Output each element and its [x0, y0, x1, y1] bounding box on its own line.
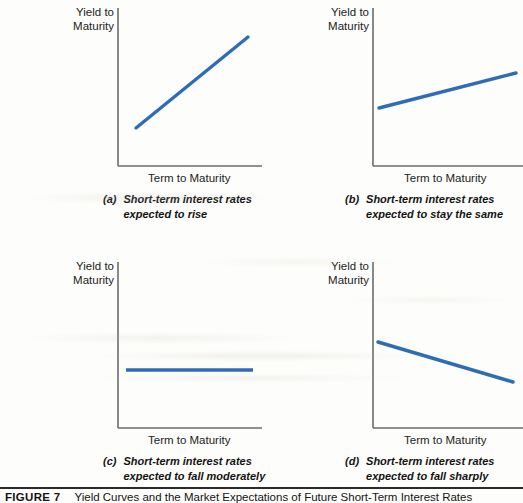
panel-b-caption: (b) Short-term interest rates expected t…	[345, 192, 520, 221]
panel-a-caption-letter: (a)	[103, 192, 116, 221]
panel-d-caption: (d) Short-term interest rates expected t…	[345, 454, 517, 483]
panel-c-x-axis-label: Term to Maturity	[148, 434, 230, 448]
panel-a-y-axis-label: Yield to Maturity	[28, 6, 114, 33]
panel-b-y-axis-label: Yield to Maturity	[283, 6, 369, 33]
panel-a-x-axis-label: Term to Maturity	[148, 172, 230, 186]
panel-c-caption-letter: (c)	[103, 454, 116, 483]
figure-number: FIGURE 7	[5, 491, 60, 503]
panel-c-caption-text: Short-term interest rates expected to fa…	[123, 454, 271, 483]
yield-curve-line	[378, 342, 513, 382]
figure-container: Yield to Maturity Term to Maturity (a) S…	[0, 0, 523, 503]
yield-curve-line	[379, 73, 516, 108]
panel-d-x-axis-label: Term to Maturity	[404, 434, 486, 448]
panel-b: Yield to Maturity Term to Maturity (b) S…	[261, 0, 523, 230]
figure-footer: FIGURE 7Yield Curves and the Market Expe…	[0, 484, 523, 503]
panel-d: Yield to Maturity Term to Maturity (d) S…	[261, 252, 523, 487]
panel-b-caption-letter: (b)	[345, 192, 359, 221]
panel-c: Yield to Maturity Term to Maturity (c) S…	[0, 252, 262, 487]
panel-d-y-axis-label: Yield to Maturity	[283, 260, 369, 287]
panel-a-caption-text: Short-term interest rates expected to ri…	[123, 192, 263, 221]
figure-footer-text: FIGURE 7Yield Curves and the Market Expe…	[5, 491, 472, 503]
figure-footer-rule	[0, 487, 523, 489]
figure-title: Yield Curves and the Market Expectations…	[74, 491, 472, 503]
panel-a-caption: (a) Short-term interest rates expected t…	[103, 192, 263, 221]
panel-d-caption-text: Short-term interest rates expected to fa…	[366, 454, 517, 483]
panel-a: Yield to Maturity Term to Maturity (a) S…	[0, 0, 262, 230]
yield-curve-line	[136, 37, 248, 128]
panel-b-caption-text: Short-term interest rates expected to st…	[366, 192, 520, 221]
panel-c-y-axis-label: Yield to Maturity	[28, 260, 114, 287]
panel-b-x-axis-label: Term to Maturity	[404, 172, 486, 186]
panel-c-caption: (c) Short-term interest rates expected t…	[103, 454, 271, 483]
panel-d-caption-letter: (d)	[345, 454, 359, 483]
